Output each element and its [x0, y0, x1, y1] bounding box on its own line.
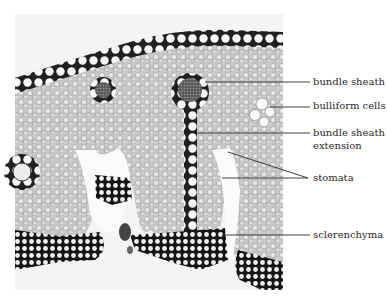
leaf-cross-section-figure: bundle sheath bulliform cells bundle she…	[0, 0, 387, 304]
debris	[119, 223, 131, 241]
label-bulliform-cells: bulliform cells	[313, 100, 386, 112]
vascular-bundle	[178, 78, 202, 102]
small-vascular-bundle	[95, 82, 111, 98]
label-bundle-sheath: bundle sheath	[313, 76, 385, 88]
label-bundle-sheath-extension: bundle sheath	[313, 127, 385, 139]
label-stomata: stomata	[313, 172, 354, 184]
label-bundle-sheath-extension-line2: extension	[313, 140, 362, 152]
label-sclerenchyma: sclerenchyma	[313, 229, 383, 241]
micrograph	[0, 0, 387, 304]
